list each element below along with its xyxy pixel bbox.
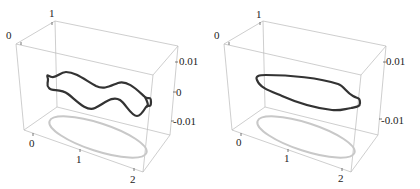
right-plot-graphic bbox=[210, 0, 420, 189]
z-tick-neg0.01: -0.01 bbox=[173, 116, 196, 127]
y-tick-1: 1 bbox=[49, 8, 55, 19]
y-tick-0: 0 bbox=[6, 30, 12, 41]
z-tick-0: 0 bbox=[176, 87, 182, 98]
y-tick-0: 0 bbox=[214, 30, 220, 41]
left-projection bbox=[45, 108, 151, 166]
right-projection bbox=[253, 108, 359, 166]
x-tick-2: 2 bbox=[130, 174, 136, 185]
right-curve bbox=[256, 75, 360, 110]
left-curve bbox=[47, 72, 151, 116]
left-plot: 0 1 0.01 0 -0.01 0 1 2 bbox=[0, 0, 210, 189]
x-tick-0: 0 bbox=[236, 137, 242, 148]
x-tick-1: 1 bbox=[76, 154, 82, 165]
right-plot: 0 1 0.01 -0.01 0 1 2 bbox=[210, 0, 420, 189]
x-tick-2: 2 bbox=[338, 173, 344, 184]
y-tick-1: 1 bbox=[256, 9, 262, 20]
z-tick-0.01: 0.01 bbox=[179, 56, 198, 67]
z-tick-neg0.01: -0.01 bbox=[381, 115, 404, 126]
x-tick-0: 0 bbox=[29, 138, 35, 149]
z-tick-0.01: 0.01 bbox=[386, 56, 405, 67]
x-tick-1: 1 bbox=[284, 153, 290, 164]
